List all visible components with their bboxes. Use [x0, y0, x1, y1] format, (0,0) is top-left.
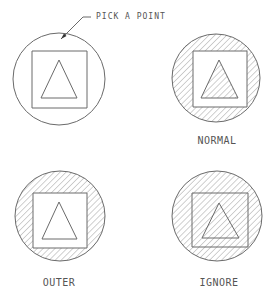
panel-outer: OUTER	[15, 171, 105, 288]
inner-triangle	[42, 202, 77, 239]
label-ignore: IGNORE	[199, 277, 238, 288]
callout-label: PICK A POINT	[96, 12, 166, 21]
inner-square	[33, 193, 87, 248]
hatch-style-diagram: PICK A POINT NORMALOUTERIGNORE	[0, 0, 279, 297]
panel-ignore: IGNORE	[172, 171, 262, 288]
panel-pick	[13, 33, 105, 125]
label-outer: OUTER	[43, 277, 76, 288]
label-normal: NORMAL	[197, 135, 236, 146]
panel-normal: NORMAL	[172, 34, 260, 146]
pick-a-point-callout: PICK A POINT	[61, 12, 166, 39]
outer-circle	[13, 33, 105, 125]
inner-square	[32, 51, 87, 108]
inner-triangle	[41, 60, 77, 98]
